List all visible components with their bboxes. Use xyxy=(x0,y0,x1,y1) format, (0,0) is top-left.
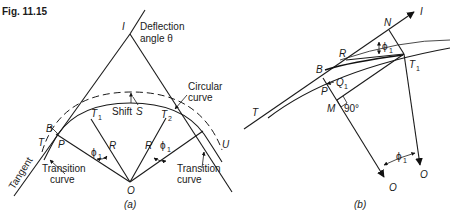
deflection-label-2: angle θ xyxy=(140,33,173,44)
label-B-b: B xyxy=(316,64,323,75)
transition-curve-right xyxy=(204,134,222,162)
label-P: P xyxy=(58,139,65,150)
transition-curve-left xyxy=(44,134,58,160)
panel-b: I N R B T 1 Q 1 P M 90° T ϕ 1 ϕ 1 O O (b… xyxy=(244,6,450,210)
label-N: N xyxy=(384,17,392,28)
phi-top-label: ϕ xyxy=(382,41,388,52)
phi-right-label: ϕ xyxy=(160,140,166,151)
deflection-label-1: Deflection xyxy=(140,21,184,32)
transition-left-label-2: curve xyxy=(50,174,75,185)
shift-symbol: S xyxy=(136,106,143,117)
line-T1-M xyxy=(337,54,404,100)
circular-curve-leader xyxy=(175,95,187,109)
circular-curve-label-1: Circular xyxy=(188,81,223,92)
right-angle-label: 90° xyxy=(344,103,359,114)
radius-right-label: R xyxy=(145,140,152,151)
circular-curve-label-2: curve xyxy=(188,92,213,103)
caption-b: (b) xyxy=(354,199,366,210)
transition-left-label-1: Transition xyxy=(42,163,86,174)
caption-a: (a) xyxy=(124,199,136,210)
label-T1-b: T xyxy=(409,59,416,70)
radius-left-label: R xyxy=(109,140,116,151)
label-T-b: T xyxy=(252,107,259,118)
phi-bottom-label: ϕ xyxy=(396,151,402,162)
label-O-left-b: O xyxy=(389,182,397,193)
figure-title: Fig. 11.15 xyxy=(2,6,47,17)
label-U: U xyxy=(222,139,230,150)
label-T1: T xyxy=(91,108,98,119)
transition-right-label-2: curve xyxy=(177,174,202,185)
label-T1-b-sub: 1 xyxy=(416,65,420,72)
label-O: O xyxy=(127,185,135,196)
label-I-b: I xyxy=(420,6,423,17)
circular-curve-b xyxy=(340,40,450,60)
label-T1-sub: 1 xyxy=(98,114,102,121)
phi-right-sub: 1 xyxy=(167,146,171,153)
figure-canvas: Fig. 11.15 I Deflection xyxy=(0,0,457,215)
shift-label: Shift xyxy=(112,106,132,117)
phi-bottom-sub: 1 xyxy=(403,157,407,164)
phi-top-sub: 1 xyxy=(389,47,393,54)
label-P-b: P xyxy=(321,86,328,97)
label-Q1: Q xyxy=(336,77,344,88)
label-T2: T xyxy=(161,109,168,120)
phi-left-sub: 1 xyxy=(98,153,102,160)
label-R-b: R xyxy=(339,48,346,59)
label-I: I xyxy=(122,21,125,32)
panel-a: I Deflection angle θ Circular curve Shif… xyxy=(6,10,232,210)
shift-leader xyxy=(133,97,138,105)
label-Q1-sub: 1 xyxy=(344,83,348,90)
label-M: M xyxy=(327,103,336,114)
transition-right-label-1: Transition xyxy=(177,163,221,174)
label-T2-sub: 2 xyxy=(168,115,172,122)
label-O-right-b: O xyxy=(420,169,428,180)
label-B: B xyxy=(46,123,53,134)
label-T: T xyxy=(38,137,45,148)
radius-B-O xyxy=(323,78,384,177)
phi-left-label: ϕ xyxy=(91,147,97,158)
